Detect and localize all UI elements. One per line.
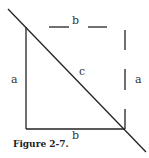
- label-left-a: a: [11, 74, 18, 85]
- label-hyp-c: c: [79, 66, 85, 77]
- figure-caption: Figure 2-7.: [13, 140, 69, 149]
- label-right-a: a: [135, 74, 142, 85]
- label-bottom-b: b: [72, 130, 79, 141]
- figure-2-7: b a c a b Figure 2-7.: [0, 0, 149, 158]
- label-top-b: b: [72, 15, 79, 26]
